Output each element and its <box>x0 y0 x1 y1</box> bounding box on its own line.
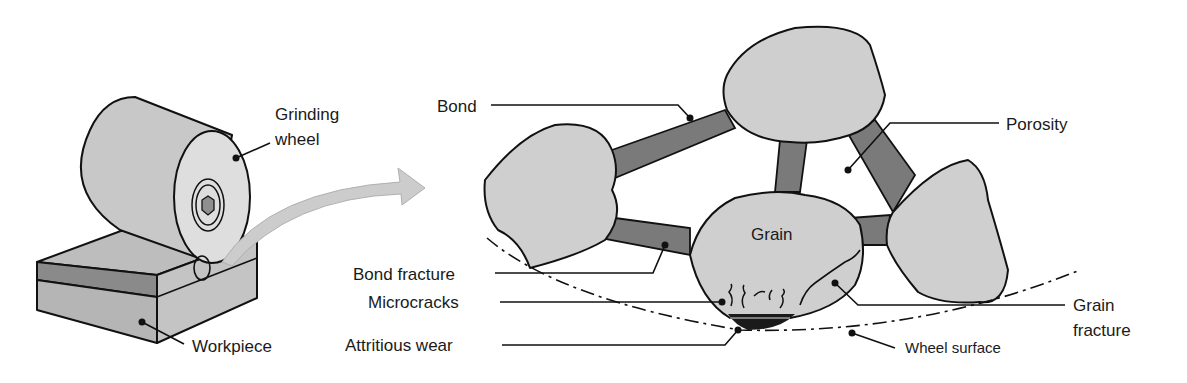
label-attritious-wear: Attritious wear <box>345 336 453 355</box>
grain-center <box>690 192 863 318</box>
workpiece-leader-dot <box>139 319 146 326</box>
bond-top-left <box>612 110 735 178</box>
wheel-hex-nut <box>202 196 214 215</box>
grinding-wheel-leader-dot <box>233 155 240 162</box>
label-workpiece: Workpiece <box>192 337 272 356</box>
porosity-leader-dot <box>845 167 852 174</box>
label-grain-fracture-2: fracture <box>1073 321 1131 340</box>
attritious-wear-leader-dot <box>735 327 742 334</box>
bond-leader-dot <box>687 115 694 122</box>
attritious-wear-leader <box>502 330 738 345</box>
label-microcracks: Microcracks <box>368 293 459 312</box>
grinding-wheel-leader <box>236 143 270 158</box>
label-porosity: Porosity <box>1006 115 1068 134</box>
bond-vertical <box>775 140 807 192</box>
grain-left <box>485 124 618 268</box>
abrasive-grains: Grain <box>485 27 1008 330</box>
bond-fracture-leader-dot <box>662 242 669 249</box>
wheel-surface-leader-dot <box>849 330 856 337</box>
label-grinding-wheel-2: wheel <box>274 130 319 149</box>
bond-leader <box>491 105 690 118</box>
grinding-setup: Grinding wheel Workpiece <box>37 97 425 356</box>
label-grain: Grain <box>751 225 793 244</box>
label-grain-fracture-1: Grain <box>1073 296 1115 315</box>
grain-top <box>724 27 886 143</box>
grain-fracture-leader-dot <box>832 280 839 287</box>
wheel-surface-leader <box>852 333 895 348</box>
label-bond-fracture: Bond fracture <box>353 265 455 284</box>
label-grinding-wheel-1: Grinding <box>275 105 339 124</box>
label-bond: Bond <box>437 97 477 116</box>
microcracks-leader-dot <box>719 299 726 306</box>
grinding-diagram: Grinding wheel Workpiece <box>0 0 1187 383</box>
label-wheel-surface: Wheel surface <box>905 339 1001 356</box>
wheel-microstructure: Grain Bond Porosity Bond fracture Microc… <box>345 27 1131 356</box>
